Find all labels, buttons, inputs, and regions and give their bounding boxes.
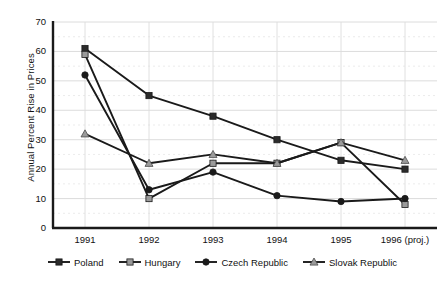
chart-legend: PolandHungaryCzech RepublicSlovak Republ… xyxy=(0,256,444,268)
legend-label: Hungary xyxy=(145,257,181,268)
series-poland xyxy=(82,45,408,172)
y-tick-label: 10 xyxy=(20,193,46,204)
data-series-layer xyxy=(81,45,409,207)
y-tick-label: 30 xyxy=(20,134,46,145)
minor-gridlines xyxy=(53,37,437,214)
legend-label: Czech Republic xyxy=(221,257,288,268)
legend-item-slovak-republic[interactable]: Slovak Republic xyxy=(302,256,397,268)
y-tick-label: 70 xyxy=(20,16,46,27)
y-tick-label: 50 xyxy=(20,75,46,86)
y-tick-label: 0 xyxy=(20,222,46,233)
y-tick-label: 20 xyxy=(20,163,46,174)
legend-marker-icon xyxy=(302,256,326,268)
legend-marker-icon xyxy=(194,256,218,268)
legend-item-poland[interactable]: Poland xyxy=(47,256,104,268)
legend-label: Slovak Republic xyxy=(329,257,397,268)
chart-container: Annual Percent Rise in Prices 7060504030… xyxy=(0,0,444,285)
legend-marker-icon xyxy=(118,256,142,268)
x-tick-label: 1996 (proj.) xyxy=(365,234,444,245)
axis-lines xyxy=(52,21,437,228)
legend-item-hungary[interactable]: Hungary xyxy=(118,256,181,268)
y-tick-label: 60 xyxy=(20,45,46,56)
series-czech-republic xyxy=(82,72,408,205)
legend-label: Poland xyxy=(74,257,104,268)
legend-marker-icon xyxy=(47,256,71,268)
legend-item-czech-republic[interactable]: Czech Republic xyxy=(194,256,288,268)
y-tick-label: 40 xyxy=(20,104,46,115)
